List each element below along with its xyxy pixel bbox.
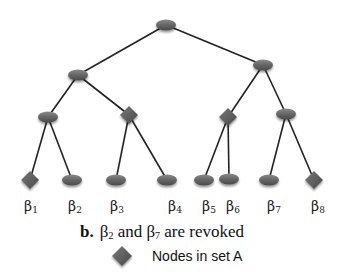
leaf-label-beta-8: β8 xyxy=(311,198,325,215)
tree-node-ellipse xyxy=(276,109,296,120)
tree-node-diamond xyxy=(219,108,237,126)
tree-edge xyxy=(78,25,166,75)
tree-node-ellipse xyxy=(156,20,176,31)
tree-edge xyxy=(286,114,314,180)
tree-edge xyxy=(78,75,129,115)
tree-edge xyxy=(48,75,78,117)
leaf-label-beta-2: β2 xyxy=(68,198,82,215)
tree-node-ellipse xyxy=(62,175,82,186)
legend: Nodes in set A xyxy=(110,244,242,268)
caption-label: b. xyxy=(80,222,94,241)
tree-edge xyxy=(116,115,129,180)
tree-node-diamond xyxy=(305,171,323,189)
tree-node-ellipse xyxy=(259,175,279,186)
legend-text: Nodes in set A xyxy=(152,248,242,264)
tree-edge xyxy=(48,117,72,180)
leaf-label-beta-1: β1 xyxy=(24,198,38,215)
tree-edge xyxy=(129,115,167,180)
tree-node-ellipse xyxy=(157,175,177,186)
tree-edges xyxy=(30,25,314,180)
tree-edge xyxy=(30,117,48,180)
figure-caption: b.β2 and β7 are revoked xyxy=(80,222,244,242)
tree-node-ellipse xyxy=(253,60,273,71)
tree-edge xyxy=(269,114,286,180)
tree-edge xyxy=(228,117,229,179)
tree-node-ellipse xyxy=(38,112,58,123)
caption-beta-2: β2 xyxy=(100,222,114,241)
leaf-label-beta-3: β3 xyxy=(110,198,124,215)
tree-node-ellipse xyxy=(68,70,88,81)
tree-edge xyxy=(166,25,263,65)
tree-node-diamond xyxy=(120,106,138,124)
tree-edge xyxy=(263,65,286,114)
tree-node-diamond xyxy=(21,171,39,189)
tree-edge xyxy=(204,117,228,180)
caption-beta-7: β7 xyxy=(146,222,160,241)
leaf-label-beta-4: β4 xyxy=(168,198,182,215)
tree-node-ellipse xyxy=(194,175,214,186)
tree-edge xyxy=(228,65,263,117)
tree-node-ellipse xyxy=(219,174,239,185)
leaf-label-beta-7: β7 xyxy=(267,198,281,215)
tree-node-ellipse xyxy=(106,175,126,186)
leaf-label-beta-5: β5 xyxy=(202,198,216,215)
leaf-label-beta-6: β6 xyxy=(226,198,240,215)
